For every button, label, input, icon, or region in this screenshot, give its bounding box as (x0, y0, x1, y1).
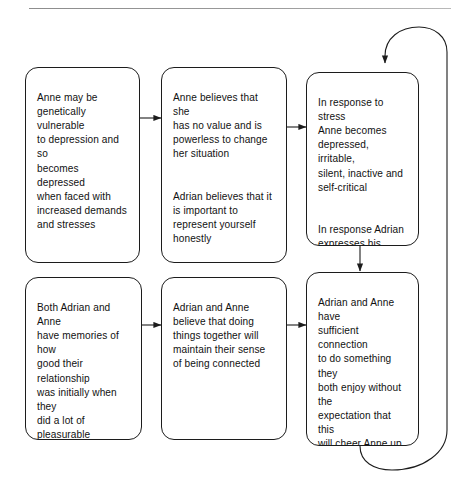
node-paragraph: Both Adrian and Anne have memories of ho… (37, 301, 131, 440)
node-core-beliefs: Anne believes that she has no value and … (161, 67, 287, 263)
node-paragraph: Adrian believes that it is important to … (173, 190, 276, 246)
node-paragraph: In response to stress Anne becomes depre… (318, 96, 408, 195)
node-paragraph: Adrian and Anne believe that doing thing… (173, 301, 276, 371)
node-shared-belief: Adrian and Anne believe that doing thing… (161, 277, 287, 440)
node-paragraph: Anne believes that she has no value and … (173, 91, 276, 161)
diagram-page: Anne may be genetically vulnerable to de… (0, 0, 462, 487)
node-responses-to-stress: In response to stress Anne becomes depre… (306, 72, 419, 246)
node-connection-outcome: Adrian and Anne have sufficient connecti… (306, 272, 419, 446)
node-paragraph: Adrian and Anne have sufficient connecti… (318, 296, 408, 446)
node-paragraph: Anne may be genetically vulnerable to de… (37, 91, 129, 232)
node-predisposing-factors: Anne may be genetically vulnerable to de… (25, 67, 140, 263)
node-paragraph: Adrian has been socialised in a family w… (37, 260, 129, 263)
node-shared-memories: Both Adrian and Anne have memories of ho… (25, 277, 142, 440)
node-paragraph: In response Adrian expresses his sorrow … (318, 223, 408, 246)
